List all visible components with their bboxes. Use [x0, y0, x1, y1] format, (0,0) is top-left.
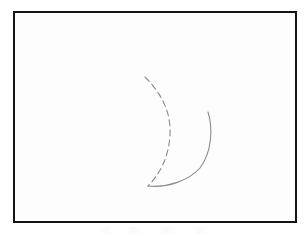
- figure-canvas: [0, 0, 307, 237]
- figure-frame-border: [13, 11, 297, 223]
- baseline-artifact-marks: [100, 227, 210, 234]
